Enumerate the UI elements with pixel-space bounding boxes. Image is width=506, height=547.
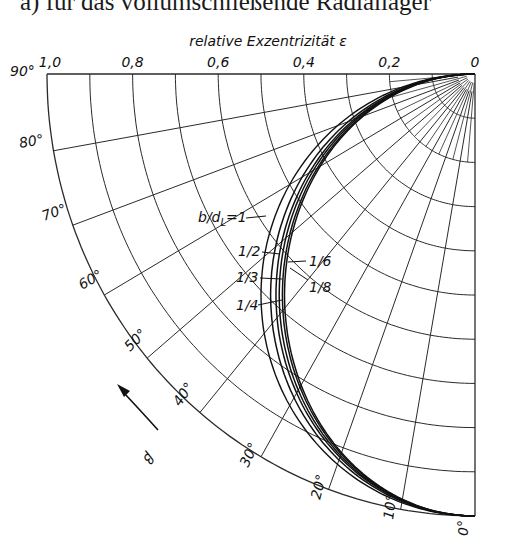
beta-tick-label: 70° — [40, 200, 69, 224]
beta-arrow — [124, 393, 158, 430]
grid-radial — [329, 91, 470, 490]
beta-tick-label: 20° — [307, 473, 329, 501]
epsilon-tick-label: 0,8 — [121, 54, 143, 70]
epsilon-tick-label: 0,4 — [293, 54, 315, 70]
chart-labels: 1,00,80,60,40,200°10°20°30°40°50°60°70°8… — [10, 54, 480, 536]
beta-tick-label: 40° — [169, 379, 196, 409]
series-label: 1/6 — [309, 253, 332, 269]
grid-radial-minor — [468, 83, 475, 162]
series-curve — [261, 74, 475, 516]
grid-radial — [73, 80, 459, 225]
series-curve — [282, 74, 475, 516]
series-label: 1/3 — [236, 269, 259, 285]
beta-arrow-head — [117, 384, 130, 397]
series-leader-line — [260, 278, 282, 279]
grid-radial — [401, 91, 472, 509]
series-leader-line — [246, 216, 266, 218]
epsilon-tick-label: 0,2 — [378, 54, 400, 70]
grid-radial — [104, 83, 460, 295]
epsilon-tick-label: 0 — [471, 54, 480, 70]
chart-curves — [261, 74, 475, 516]
series-label: 1/4 — [236, 297, 259, 313]
grid-radial — [147, 85, 462, 358]
grid-radial-minor — [426, 81, 470, 146]
beta-arrow-label: β — [140, 449, 159, 467]
series-label: 1/8 — [309, 279, 332, 295]
series-curve — [285, 74, 476, 516]
series-leader-line — [290, 268, 308, 280]
series-curve — [271, 74, 475, 516]
axis-title: relative Exzentrizität ε — [189, 33, 347, 49]
epsilon-tick-label: 0,6 — [207, 54, 229, 70]
series-label: b/dL=1 — [198, 209, 247, 228]
polar-chart: 1,00,80,60,40,200°10°20°30°40°50°60°70°8… — [0, 0, 506, 547]
beta-tick-label: 10° — [380, 494, 399, 521]
beta-tick-label: 90° — [10, 63, 35, 79]
beta-tick-label: 80° — [18, 131, 45, 151]
epsilon-tick-label: 1,0 — [39, 54, 61, 70]
series-curve — [279, 74, 475, 516]
beta-tick-label: 30° — [236, 440, 261, 469]
beta-tick-label: 0° — [455, 520, 471, 536]
grid-radial — [261, 89, 466, 456]
series-leader-line — [288, 261, 306, 262]
series-label: 1/2 — [238, 243, 261, 259]
grid-radial — [54, 77, 459, 151]
